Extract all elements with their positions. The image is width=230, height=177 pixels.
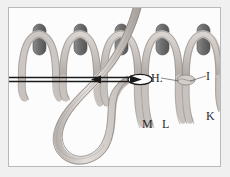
diagram-panel: H. I M L K — [8, 7, 221, 167]
label-H: H. — [151, 72, 163, 84]
threaded-needle — [9, 74, 152, 84]
label-L: L — [162, 118, 169, 130]
knitting-loom-illustration — [9, 8, 220, 166]
label-M: M — [142, 118, 153, 130]
yarn-leg-5b — [219, 78, 220, 108]
working-yarn-body — [58, 8, 138, 161]
label-I: I — [206, 70, 210, 82]
figure-root: H. I M L K — [0, 0, 230, 177]
label-K: K — [206, 110, 215, 122]
